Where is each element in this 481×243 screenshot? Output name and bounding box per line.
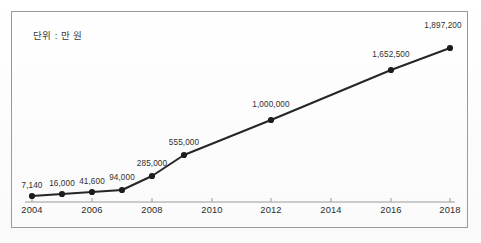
data-point-label: 41,600 [79, 177, 105, 186]
chart-border-frame [11, 11, 468, 228]
x-axis-tick-label: 2004 [21, 205, 42, 215]
data-point-label: 1,652,500 [372, 50, 409, 59]
unit-annotation: 단위 : 만 원 [33, 28, 83, 42]
data-point-label: 1,897,200 [424, 21, 461, 30]
data-point-label: 16,000 [49, 179, 75, 188]
x-axis-tick-label: 2006 [81, 205, 102, 215]
x-axis-tick-label: 2014 [320, 205, 341, 215]
data-point-label: 94,000 [109, 173, 135, 182]
x-axis-tick-label: 2012 [260, 205, 281, 215]
data-point-label: 1,000,000 [252, 100, 289, 109]
data-point-label: 285,000 [137, 159, 167, 168]
x-axis-tick-label: 2016 [380, 205, 401, 215]
x-axis-tick-label: 2018 [439, 205, 460, 215]
data-point-label: 7,140 [22, 181, 43, 190]
x-axis-tick-label: 2008 [141, 205, 162, 215]
x-axis-tick-label: 2010 [201, 205, 222, 215]
chart-page: 단위 : 만 원 7,14016,00041,60094,000285,0005… [0, 0, 481, 243]
data-point-label: 555,000 [169, 138, 199, 147]
